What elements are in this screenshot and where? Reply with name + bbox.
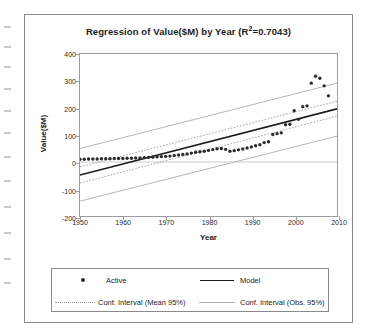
legend-item-active[interactable]: Active — [60, 269, 126, 291]
data-point — [134, 156, 137, 159]
data-point — [233, 149, 236, 152]
data-point — [250, 145, 253, 148]
data-point — [211, 148, 214, 151]
x-tick-mark — [123, 216, 124, 220]
data-point — [207, 149, 210, 152]
x-tick-label: 1960 — [115, 219, 131, 226]
legend-label-mean-ci: Conf. Interval (Mean 95%) — [98, 298, 186, 307]
data-point — [220, 147, 223, 150]
x-tick-label: 2000 — [288, 219, 304, 226]
obs-ci-lower-line — [80, 136, 337, 201]
chart-title-tail: =0.7043) — [253, 26, 292, 37]
data-point — [310, 81, 313, 84]
data-point — [254, 144, 257, 147]
data-point — [164, 155, 167, 158]
dotted-line-marker-icon — [52, 302, 98, 303]
data-point — [95, 157, 98, 160]
data-point — [181, 153, 184, 156]
data-point — [91, 157, 94, 160]
data-point — [113, 157, 116, 160]
data-point — [117, 157, 120, 160]
data-point — [245, 146, 248, 149]
data-point — [322, 84, 325, 87]
data-point — [241, 147, 244, 150]
data-point — [151, 155, 154, 158]
solid-line-marker-icon — [194, 280, 240, 281]
x-tick-label: 1950 — [72, 219, 88, 226]
data-point — [224, 148, 227, 151]
chart-legend: Active Model Conf. Interval (Mean 95%) C… — [51, 268, 329, 312]
legend-item-model[interactable]: Model — [194, 269, 260, 291]
data-point — [314, 74, 317, 77]
y-tick-mark — [76, 109, 80, 110]
y-tick-mark — [76, 81, 80, 82]
data-point — [130, 157, 133, 160]
data-point — [301, 105, 304, 108]
y-tick-label: 100 — [64, 133, 76, 140]
data-point — [194, 151, 197, 154]
data-point — [177, 153, 180, 156]
data-point — [138, 156, 141, 159]
data-point — [237, 148, 240, 151]
data-point — [143, 156, 146, 159]
page-edge-marks — [0, 0, 18, 335]
x-axis-label: Year — [79, 233, 338, 242]
data-point — [327, 94, 330, 97]
data-point — [288, 123, 291, 126]
data-point — [267, 140, 270, 143]
plot-area: -200-1000100200300400 195019601970198019… — [79, 53, 338, 217]
chart-title-main: Regression of Value($M) by Year (R — [86, 26, 249, 37]
data-point — [155, 155, 158, 158]
data-point — [121, 157, 124, 160]
y-tick-mark — [76, 136, 80, 137]
data-point — [271, 133, 274, 136]
x-tick-mark — [253, 216, 254, 220]
data-point — [160, 155, 163, 158]
data-point — [104, 157, 107, 160]
x-tick-mark — [339, 216, 340, 220]
legend-row-2: Conf. Interval (Mean 95%) Conf. Interval… — [52, 291, 328, 313]
legend-label-active: Active — [106, 276, 126, 285]
y-tick-label: 200 — [64, 105, 76, 112]
data-point — [203, 150, 206, 153]
data-point — [83, 158, 86, 161]
data-point — [292, 109, 295, 112]
data-point — [258, 143, 261, 146]
legend-item-mean-ci[interactable]: Conf. Interval (Mean 95%) — [52, 291, 186, 313]
y-tick-label: -100 — [62, 187, 76, 194]
y-tick-mark — [76, 54, 80, 55]
active-data-points — [80, 74, 330, 161]
data-point — [275, 132, 278, 135]
chart-figure: Regression of Value($M) by Year (R2=0.70… — [24, 14, 353, 323]
x-tick-mark — [166, 216, 167, 220]
x-tick-mark — [296, 216, 297, 220]
legend-item-obs-ci[interactable]: Conf. Interval (Obs. 95%) — [194, 291, 325, 313]
x-tick-label: 2010 — [331, 219, 347, 226]
y-axis-label: Value($M) — [39, 94, 48, 174]
data-point — [147, 156, 150, 159]
data-point — [215, 147, 218, 150]
chart-title: Regression of Value($M) by Year (R2=0.70… — [25, 25, 352, 37]
y-tick-mark — [76, 191, 80, 192]
data-point — [262, 141, 265, 144]
data-point — [173, 154, 176, 157]
plot-wrapper: Value($M) -200-1000100200300400 19501960… — [25, 43, 354, 258]
x-tick-label: 1980 — [202, 219, 218, 226]
data-point — [80, 158, 82, 161]
y-tick-label: 300 — [64, 78, 76, 85]
data-point — [318, 77, 321, 80]
x-tick-mark — [80, 216, 81, 220]
data-point — [108, 157, 111, 160]
plot-canvas — [80, 54, 337, 216]
data-point — [280, 131, 283, 134]
obs-ci-upper-line — [80, 83, 337, 148]
data-point — [284, 123, 287, 126]
legend-label-model: Model — [240, 276, 260, 285]
data-point — [125, 157, 128, 160]
x-tick-label: 1970 — [159, 219, 175, 226]
data-point — [228, 150, 231, 153]
data-point — [297, 118, 300, 121]
data-point — [305, 104, 308, 107]
data-point — [87, 157, 90, 160]
thin-line-marker-icon — [194, 302, 240, 303]
